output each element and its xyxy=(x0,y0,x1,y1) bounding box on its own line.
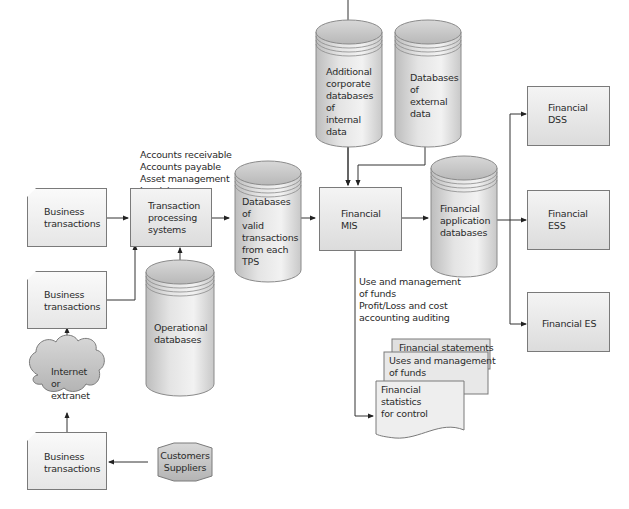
tps-function: Accounts payable xyxy=(140,161,232,173)
label-line: MIS xyxy=(341,220,381,232)
label-line: Databases xyxy=(410,72,458,84)
label-line: of xyxy=(410,84,458,96)
label-line: Business xyxy=(44,206,100,218)
label-line: or xyxy=(51,378,90,390)
label-line: data xyxy=(326,126,373,138)
folded-corner-icon xyxy=(27,271,36,280)
label-line: Uses and management xyxy=(389,355,495,367)
operational-databases-label: Operational databases xyxy=(154,322,208,346)
label-line: of funds xyxy=(389,367,495,379)
financial-application-databases-label: Financial application databases xyxy=(440,203,490,239)
external-databases-label: Databases of external data xyxy=(410,72,458,120)
customers-suppliers-label: Customers Suppliers xyxy=(158,450,212,474)
label-line: ESS xyxy=(548,220,588,232)
label-line: statistics xyxy=(381,396,428,408)
label-line: databases xyxy=(326,90,373,102)
business-transactions-1: Business transactions xyxy=(27,188,107,247)
label-line: of xyxy=(242,208,298,220)
label-line: application xyxy=(440,215,490,227)
label-line: Financial xyxy=(440,203,490,215)
label-line: transactions xyxy=(242,232,298,244)
label-line: DSS xyxy=(548,114,588,126)
label-line: systems xyxy=(148,224,200,236)
label-line: Financial xyxy=(341,208,381,220)
financial-ess: Financial ESS xyxy=(527,190,610,250)
label-line: extranet xyxy=(51,390,90,402)
label-line: for control xyxy=(381,408,428,420)
report-uses-management-funds: Uses and management of funds xyxy=(389,355,495,379)
label-line: processing xyxy=(148,212,200,224)
label-line: databases xyxy=(440,227,490,239)
label-line: databases xyxy=(154,334,208,346)
tps-function: Accounts receivable xyxy=(140,149,232,161)
folded-corner-icon xyxy=(27,188,36,197)
valid-transactions-db-label: Databases of valid transactions from eac… xyxy=(242,196,298,268)
label-line: TPS xyxy=(242,256,298,268)
label-line: Use and management xyxy=(359,276,461,288)
label-line: transactions xyxy=(44,301,100,313)
report-financial-statements: Financial statements xyxy=(399,342,493,354)
label-line: of xyxy=(326,102,373,114)
label-line: Financial xyxy=(548,102,588,114)
label-line: corporate xyxy=(326,78,373,90)
business-transactions-2: Business transactions xyxy=(27,271,107,329)
transaction-processing-systems: Transaction processing systems xyxy=(130,188,212,247)
financial-es: Financial ES xyxy=(527,292,610,352)
label-line: valid xyxy=(242,220,298,232)
label-line: Customers xyxy=(158,450,212,462)
label-line: accounting auditing xyxy=(359,312,461,324)
tps-function: Asset management xyxy=(140,173,232,185)
label-line: internal xyxy=(326,114,373,126)
folded-corner-icon xyxy=(27,432,36,441)
label-line: Suppliers xyxy=(158,462,212,474)
label-line: Financial xyxy=(381,384,428,396)
label-line: transactions xyxy=(44,463,100,475)
label-line: Internet xyxy=(51,366,90,378)
label-line: transactions xyxy=(44,218,100,230)
label-line: Additional xyxy=(326,66,373,78)
label-line: external xyxy=(410,96,458,108)
label-line: from each xyxy=(242,244,298,256)
label-line: Operational xyxy=(154,322,208,334)
label-line: Business xyxy=(44,289,100,301)
label-line: data xyxy=(410,108,458,120)
internal-databases-label: Additional corporate databases of intern… xyxy=(326,66,373,138)
label-line: Financial statements xyxy=(399,342,493,354)
label-line: of funds xyxy=(359,288,461,300)
internet-extranet-label: Internet or extranet xyxy=(51,366,90,402)
label-line: Databases xyxy=(242,196,298,208)
report-financial-statistics: Financial statistics for control xyxy=(381,384,428,420)
label-line: Financial xyxy=(548,208,588,220)
label-line: Transaction xyxy=(148,200,200,212)
label-line: Financial ES xyxy=(542,318,596,330)
mis-outputs-list: Use and management of funds Profit/Loss … xyxy=(359,276,461,324)
business-transactions-3: Business transactions xyxy=(27,432,107,490)
label-line: Profit/Loss and cost xyxy=(359,300,461,312)
financial-mis: Financial MIS xyxy=(319,187,402,251)
financial-dss: Financial DSS xyxy=(527,86,610,146)
label-line: Business xyxy=(44,451,100,463)
